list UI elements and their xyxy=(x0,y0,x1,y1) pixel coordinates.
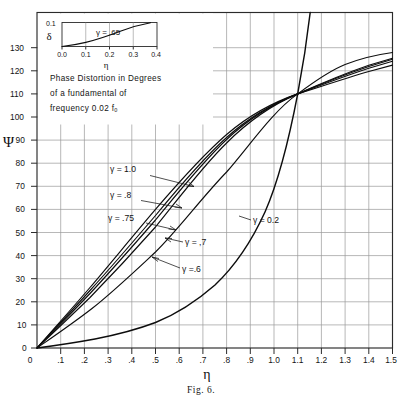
curve-label-gamma-0-75: γ = .75 xyxy=(108,213,134,223)
inset-x-tick-0-3: 0.3 xyxy=(128,51,138,58)
inset-x-tick-0-0: 0.0 xyxy=(57,51,67,58)
x-tick-0: 0 xyxy=(28,355,33,365)
y-tick-10: 10 xyxy=(17,320,27,330)
x-tick-0-4: .4 xyxy=(128,355,135,365)
y-tick-80: 80 xyxy=(16,158,26,168)
y-axis: 0 10 20 30 40 50 60 70 80 90 100 110 120… xyxy=(3,43,37,353)
inset-x-tick-0-4: 0.4 xyxy=(151,51,161,58)
x-tick-0-7: .7 xyxy=(199,355,206,365)
inset-y-tick-0-1: 0.1 xyxy=(46,20,56,27)
curve-label-gamma-0-6: γ =.6 xyxy=(182,264,201,274)
x-tick-0-5: .5 xyxy=(152,355,159,365)
x-tick-1-2: 1.2 xyxy=(316,355,328,365)
leader-arrow-gamma-0-75 xyxy=(169,226,177,230)
curve-label-gamma-0-7: γ = ,7 xyxy=(185,237,206,247)
inset-x-tick-0-2: 0.2 xyxy=(105,51,115,58)
inset-x-axis-label: η xyxy=(104,60,109,70)
y-tick-90: 90 xyxy=(16,135,26,145)
x-axis-label: η xyxy=(203,367,210,382)
leader-gamma-0-6 xyxy=(152,257,180,268)
inset-curve-label-gamma-0-65: γ = .65 xyxy=(96,28,121,37)
chart-canvas: γ = 1.0 γ = .8 γ = .75 γ = ,7 γ =.6 γ = … xyxy=(0,0,403,403)
x-tick-1-4: 1.4 xyxy=(363,355,375,365)
figure-caption: Fig. 6. xyxy=(187,385,215,395)
x-tick-1-3: 1.3 xyxy=(339,355,351,365)
curve-label-gamma-1-0: γ = 1.0 xyxy=(110,164,136,174)
inset-x-tick-0-1: 0.1 xyxy=(81,51,91,58)
x-tick-0-8: .8 xyxy=(223,355,230,365)
leader-gamma-0-2 xyxy=(239,216,251,220)
x-tick-1-5: 1.5 xyxy=(385,355,397,365)
x-tick-0-1: .1 xyxy=(57,355,64,365)
y-tick-50: 50 xyxy=(16,228,26,238)
y-tick-130: 130 xyxy=(10,43,24,53)
x-axis: 0 .1 .2 .3 .4 .5 .6 .7 .8 .9 1.0 1.1 1.2… xyxy=(28,348,397,382)
x-tick-1-0: 1.0 xyxy=(268,355,280,365)
y-tick-100: 100 xyxy=(10,112,24,122)
y-tick-110: 110 xyxy=(10,89,24,99)
curve-label-gamma-0-2: γ = 0.2 xyxy=(253,215,279,225)
x-tick-0-2: .2 xyxy=(81,355,88,365)
y-tick-120: 120 xyxy=(10,66,24,76)
y-tick-60: 60 xyxy=(16,204,26,214)
leader-arrow-gamma-0-8 xyxy=(175,204,183,208)
y-tick-0: 0 xyxy=(22,343,27,353)
y-tick-20: 20 xyxy=(16,297,26,307)
y-axis-label: Ψ xyxy=(3,134,15,150)
curve-label-gamma-0-8: γ = .8 xyxy=(110,190,131,200)
inset-y-axis-label: δ xyxy=(46,30,51,42)
y-tick-40: 40 xyxy=(16,251,26,261)
y-tick-30: 30 xyxy=(16,274,26,284)
x-tick-0-3: .3 xyxy=(105,355,112,365)
inset-text-line-1: Phase Distortion in Degrees xyxy=(50,74,161,83)
inset-text-line-3: frequency 0.02 fₒ xyxy=(50,104,118,113)
x-tick-0-6: .6 xyxy=(176,355,183,365)
x-tick-1-1: 1.1 xyxy=(292,355,304,365)
figure-6: γ = 1.0 γ = .8 γ = .75 γ = ,7 γ =.6 γ = … xyxy=(0,0,403,403)
x-tick-0-9: .9 xyxy=(247,355,254,365)
inset-text-line-2: of a fundamental of xyxy=(50,89,127,98)
inset-panel: 0.0 0.1 0.2 0.3 0.4 0.1 η δ γ = .65 Phas… xyxy=(38,14,213,125)
y-tick-70: 70 xyxy=(16,181,26,191)
